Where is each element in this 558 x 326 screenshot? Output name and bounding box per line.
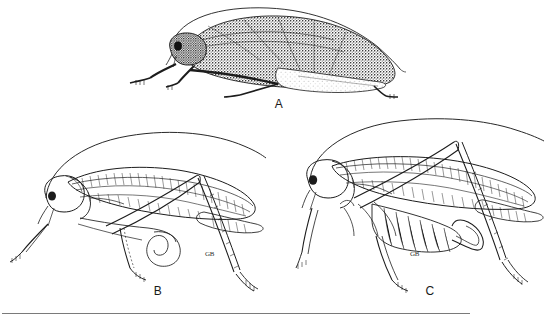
abdomen-c — [372, 204, 461, 252]
tibial-spines-c — [298, 172, 522, 293]
tegmen-c — [332, 157, 543, 222]
figure-panel-c — [288, 112, 556, 294]
tegmen-a — [185, 16, 394, 93]
eye-c — [309, 175, 317, 185]
eye-a — [174, 42, 181, 50]
legs-c — [296, 141, 528, 291]
figure-label-a: A — [267, 97, 291, 111]
eye-b — [48, 191, 56, 200]
tegmen-b — [68, 167, 263, 233]
artist-monogram-c: GB — [410, 250, 419, 258]
figure-label-b: B — [146, 284, 170, 298]
artist-monogram-b: GB — [205, 250, 214, 258]
head-thorax-a — [166, 33, 206, 67]
antenna-c — [310, 119, 544, 182]
figure-label-c: C — [418, 284, 442, 298]
figure-plate: A — [0, 0, 558, 326]
figure-panel-b — [8, 120, 288, 295]
bottom-rule — [2, 313, 470, 314]
ovipositor-c — [452, 220, 483, 250]
antenna-b — [46, 132, 266, 198]
figure-panel-a — [128, 2, 428, 102]
